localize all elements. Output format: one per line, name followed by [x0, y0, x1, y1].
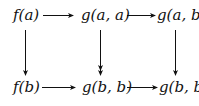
- arrow-right-down: [173, 30, 178, 76]
- arrow-top-left-to-middle: [43, 13, 74, 18]
- arrow-bottom-middle-to-right: [127, 85, 158, 90]
- arrow-top-middle-to-right: [127, 13, 156, 18]
- arrow-left-down: [23, 30, 28, 76]
- arrow-middle-down-double-head: [98, 30, 103, 76]
- arrows-layer: [0, 0, 199, 106]
- arrow-bottom-left-to-middle: [42, 85, 76, 90]
- commutative-diagram: f(a) g(a, a) g(a, b) f(b) g(b, b) g(b, b…: [0, 0, 199, 106]
